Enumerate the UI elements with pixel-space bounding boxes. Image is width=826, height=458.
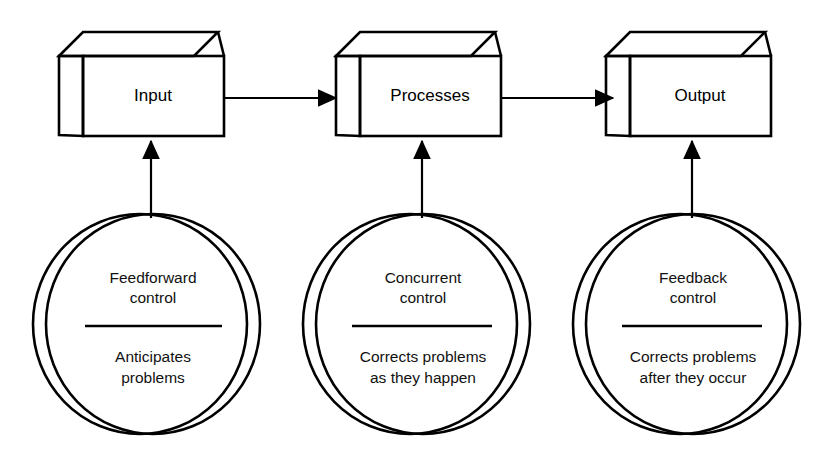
circle-feedback-back-disc bbox=[573, 214, 787, 434]
circle-concurrent-front-disc bbox=[316, 214, 530, 434]
circle-feedback-control[interactable]: Feedback control Corrects problems after… bbox=[573, 214, 800, 434]
box-processes-top-face bbox=[336, 32, 495, 56]
circle-feedforward-back-disc bbox=[33, 214, 247, 434]
box-output[interactable]: Output bbox=[606, 32, 771, 136]
box-output-top-face bbox=[606, 32, 765, 56]
circle-concurrent-title-line1: Concurrent bbox=[385, 269, 462, 286]
box-processes-side-face bbox=[336, 56, 360, 136]
circle-feedforward-desc-line1: Anticipates bbox=[115, 348, 191, 365]
box-output-label: Output bbox=[674, 86, 725, 105]
box-processes[interactable]: Processes bbox=[336, 32, 501, 136]
box-input-label: Input bbox=[134, 86, 172, 105]
circle-feedback-front-disc bbox=[586, 214, 800, 434]
circle-feedback-desc-line1: Corrects problems bbox=[630, 348, 757, 365]
box-input[interactable]: Input bbox=[59, 32, 224, 136]
box-output-side-face bbox=[606, 56, 630, 136]
control-types-diagram: Input Processes Output Feedforward contr… bbox=[0, 0, 826, 458]
circle-feedforward-title-line1: Feedforward bbox=[109, 269, 196, 286]
box-output-right-edge bbox=[765, 32, 771, 56]
circle-concurrent-desc-line1: Corrects problems bbox=[360, 348, 487, 365]
circle-concurrent-back-disc bbox=[303, 214, 517, 434]
diagram-canvas: Input Processes Output Feedforward contr… bbox=[0, 0, 826, 458]
circle-concurrent-desc-line2: as they happen bbox=[370, 369, 476, 386]
box-input-top-face bbox=[59, 32, 218, 56]
circle-feedforward-front-disc bbox=[46, 214, 260, 434]
circle-concurrent-title-line2: control bbox=[400, 289, 447, 306]
box-processes-label: Processes bbox=[390, 86, 469, 105]
box-processes-right-edge bbox=[495, 32, 501, 56]
circle-feedforward-title-line2: control bbox=[130, 289, 177, 306]
circle-feedback-title-line1: Feedback bbox=[659, 269, 727, 286]
circle-feedback-title-line2: control bbox=[670, 289, 717, 306]
box-input-side-face bbox=[59, 56, 83, 136]
circle-concurrent-control[interactable]: Concurrent control Corrects problems as … bbox=[303, 214, 530, 434]
circle-feedforward-control[interactable]: Feedforward control Anticipates problems bbox=[33, 214, 260, 434]
circle-feedback-desc-line2: after they occur bbox=[640, 369, 747, 386]
connectors-layer bbox=[151, 98, 692, 218]
box-input-right-edge bbox=[218, 32, 224, 56]
circle-feedforward-desc-line2: problems bbox=[121, 369, 185, 386]
